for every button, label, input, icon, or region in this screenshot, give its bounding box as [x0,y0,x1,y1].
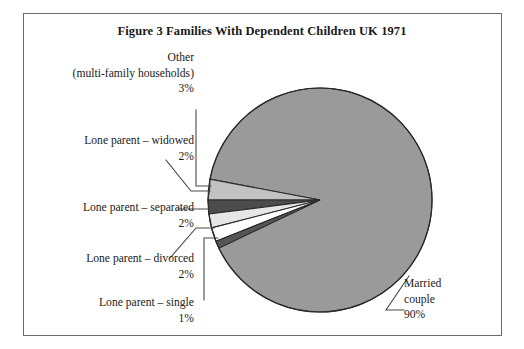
figure-root: Figure 3 Families With Dependent Childre… [0,0,524,349]
label-divorced-line1: Lone parent – divorced [86,252,194,265]
label-lone-parent-separated: Lone parent – separated 2% [83,200,194,231]
label-other: Other (multi-family households) 3% [73,50,194,97]
leader-line-single [204,238,218,300]
label-widowed-pct: 2% [84,149,194,165]
label-lone-parent-divorced: Lone parent – divorced 2% [86,251,194,282]
label-separated-pct: 2% [83,216,194,232]
label-married-pct: 90% [404,307,441,323]
label-single-pct: 1% [99,311,194,327]
label-single-line1: Lone parent – single [99,296,194,309]
label-other-pct: 3% [73,81,194,97]
label-lone-parent-widowed: Lone parent – widowed 2% [84,133,194,164]
leader-line-other [196,110,211,186]
label-divorced-pct: 2% [86,267,194,283]
label-married-couple: Married couple 90% [404,276,441,323]
label-lone-parent-single: Lone parent – single 1% [99,295,194,326]
label-married-line1: Married [404,277,441,290]
label-other-line1: Other [168,51,194,64]
label-separated-line1: Lone parent – separated [83,201,194,214]
label-widowed-line1: Lone parent – widowed [84,134,194,147]
label-married-line2: couple [404,293,435,306]
label-other-line2: (multi-family households) [73,67,194,80]
pie-slices [208,88,432,312]
